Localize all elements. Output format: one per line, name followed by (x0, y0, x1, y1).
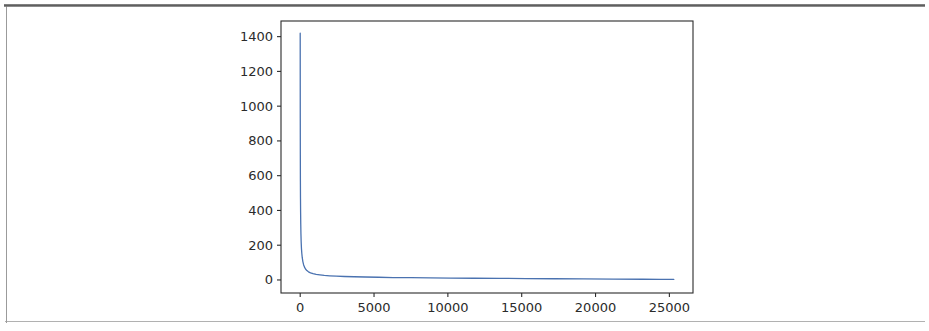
x-tick-label: 15000 (501, 300, 542, 314)
page-left-rule (6, 6, 7, 323)
y-axis: 0200400600800100012001400 (240, 29, 281, 287)
y-tick-label: 1400 (240, 29, 273, 44)
y-tick-label: 0 (265, 272, 273, 287)
y-tick-label: 800 (248, 133, 273, 148)
x-tick-label: 5000 (357, 300, 390, 314)
y-tick-label: 400 (248, 203, 273, 218)
x-tick-label: 20000 (575, 300, 616, 314)
x-tick-label: 0 (296, 300, 304, 314)
x-tick-label: 10000 (427, 300, 468, 314)
y-tick-label: 1200 (240, 64, 273, 79)
y-tick-label: 1000 (240, 99, 273, 114)
chart-canvas: 0200400600800100012001400 05000100001500… (240, 14, 710, 314)
x-tick-label: 25000 (649, 300, 690, 314)
line-chart-figure: 0200400600800100012001400 05000100001500… (240, 14, 710, 314)
page-top-rule (4, 4, 925, 7)
plot-area-background (281, 21, 693, 293)
y-tick-label: 600 (248, 168, 273, 183)
scanned-page: 0200400600800100012001400 05000100001500… (0, 0, 929, 331)
x-axis: 0500010000150002000025000 (296, 293, 690, 314)
page-bottom-rule (5, 321, 925, 322)
y-tick-label: 200 (248, 238, 273, 253)
